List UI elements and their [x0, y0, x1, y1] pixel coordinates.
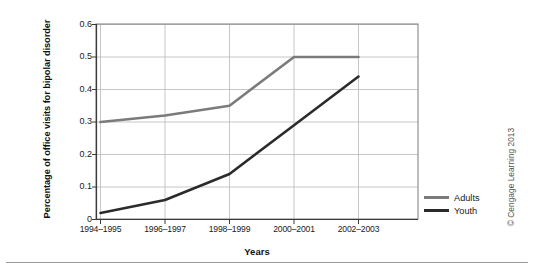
y-tick-label: 0	[60, 214, 92, 224]
x-tick-label: 2002–2003	[321, 224, 397, 234]
legend-item-youth: Youth	[424, 204, 494, 217]
copyright-credit: © Cengage Learning 2013	[506, 115, 516, 240]
chart-figure: Percentage of office visits for bipolar …	[0, 0, 534, 273]
y-tick-label: 0.2	[60, 149, 92, 159]
legend-label: Youth	[454, 206, 477, 216]
legend-swatch-icon	[424, 209, 449, 212]
y-tick-label: 0.5	[60, 51, 92, 61]
legend-label: Adults	[454, 193, 480, 203]
y-tick-label: 0.6	[60, 19, 92, 29]
plot-frame	[96, 24, 418, 219]
legend-item-adults: Adults	[424, 191, 494, 204]
x-axis-title: Years	[96, 246, 418, 257]
legend-swatch-icon	[424, 196, 449, 199]
y-tick-label: 0.3	[60, 116, 92, 126]
y-axis-title: Percentage of office visits for bipolar …	[42, 12, 52, 227]
vertical-gridlines	[101, 24, 359, 219]
y-tick-label: 0.4	[60, 84, 92, 94]
horizontal-gridlines	[96, 25, 418, 188]
footer-divider	[6, 262, 528, 263]
y-axis-tick-marks	[92, 25, 96, 220]
chart-legend: Adults Youth	[424, 191, 494, 217]
y-tick-label: 0.1	[60, 181, 92, 191]
